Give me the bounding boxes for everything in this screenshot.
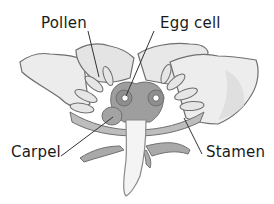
label-pollen: Pollen [41, 16, 87, 31]
egg-cell-right [153, 95, 159, 101]
stem [124, 120, 146, 196]
sepal-left [80, 146, 124, 162]
label-stamen: Stamen [206, 145, 265, 160]
label-egg-cell: Egg cell [160, 16, 221, 31]
flower-diagram: Pollen Egg cell Carpel Stamen [0, 0, 274, 204]
carpel-bulb [102, 107, 122, 125]
right-petal [170, 54, 258, 124]
egg-cell-left [122, 95, 128, 101]
label-carpel: Carpel [11, 145, 61, 160]
sepal-right [146, 143, 190, 156]
